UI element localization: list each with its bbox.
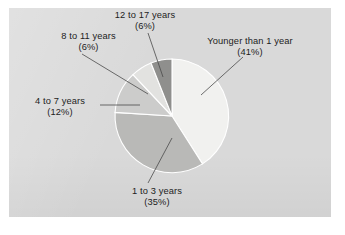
slice-label-1-to-3-years: 1 to 3 years (35%) — [108, 186, 206, 209]
slice-label-name: 8 to 11 years — [61, 31, 115, 41]
slice-label-percent: (35%) — [108, 197, 206, 208]
slice-label-name: 4 to 7 years — [35, 96, 85, 106]
slice-label-name: Younger than 1 year — [207, 36, 292, 46]
slice-label-12-to-17-years: 12 to 17 years (6%) — [93, 10, 197, 33]
slice-label-4-to-7-years: 4 to 7 years (12%) — [12, 96, 108, 119]
slice-label-name: 1 to 3 years — [132, 186, 182, 196]
slice-label-percent: (41%) — [186, 47, 314, 58]
slice-label-younger-than-1-year: Younger than 1 year (41%) — [186, 36, 314, 59]
slice-label-8-to-11-years: 8 to 11 years (6%) — [38, 31, 139, 54]
pie-slices — [115, 59, 229, 173]
slice-label-name: 12 to 17 years — [115, 10, 175, 20]
slice-label-percent: (6%) — [38, 42, 139, 53]
chart-page: 12 to 17 years (6%) 8 to 11 years (6%) Y… — [0, 0, 345, 235]
slice-label-percent: (12%) — [12, 107, 108, 118]
